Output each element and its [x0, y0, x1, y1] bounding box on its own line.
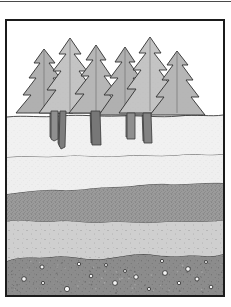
grit-dot	[144, 285, 146, 287]
rock-fragment	[209, 285, 213, 289]
rock-fragment	[89, 274, 93, 278]
grit-dot	[115, 292, 117, 294]
grit-dot	[100, 268, 101, 269]
grit-dot	[64, 268, 65, 269]
rock-fragment	[22, 277, 27, 282]
grit-dot	[8, 273, 9, 274]
grit-dot	[11, 271, 12, 272]
grit-dot	[37, 289, 38, 290]
grit-dot	[27, 269, 28, 270]
grit-dot	[177, 271, 179, 273]
grit-dot	[11, 287, 12, 288]
grit-dot	[95, 288, 96, 289]
rock-fragment	[105, 264, 108, 267]
grit-dot	[84, 284, 85, 285]
grit-dot	[39, 288, 40, 289]
grit-dot	[129, 269, 130, 270]
grit-dot	[207, 288, 208, 289]
grit-dot	[138, 271, 139, 272]
rock-fragment	[160, 259, 163, 262]
grit-dot	[137, 280, 138, 281]
grit-dot	[221, 272, 223, 274]
rock-fragment	[186, 267, 191, 272]
grit-dot	[94, 279, 95, 280]
grit-dot	[173, 289, 174, 290]
grit-dot	[61, 262, 63, 264]
rock-fragment	[41, 281, 44, 284]
grit-dot	[167, 291, 168, 292]
grit-dot	[186, 272, 188, 274]
rock-fragment	[163, 271, 168, 276]
grit-dot	[113, 277, 114, 278]
grit-dot	[201, 271, 203, 273]
grit-dot	[122, 272, 123, 273]
grit-dot	[39, 262, 40, 263]
grit-dot	[176, 285, 177, 286]
grit-dot	[71, 292, 72, 293]
grit-dot	[60, 282, 61, 283]
grit-dot	[153, 290, 154, 291]
grit-dot	[100, 281, 101, 282]
grit-dot	[200, 276, 201, 277]
figure-frame	[5, 19, 225, 297]
grit-dot	[30, 261, 32, 263]
grit-dot	[221, 270, 222, 271]
soil-layer-topsoil	[7, 115, 223, 157]
grit-dot	[93, 266, 95, 268]
grit-dot	[14, 289, 15, 290]
grit-dot	[206, 272, 207, 273]
grit-dot	[53, 284, 54, 285]
grit-dot	[12, 273, 13, 274]
grit-dot	[15, 262, 16, 263]
grit-dot	[121, 278, 123, 280]
grit-dot	[104, 282, 106, 284]
grit-dot	[16, 289, 18, 291]
grit-dot	[193, 275, 194, 276]
grit-dot	[200, 264, 201, 265]
rock-fragment	[40, 265, 44, 269]
grit-dot	[89, 271, 91, 273]
illustration-canvas: Soil profile cross-section with conifer …	[0, 0, 231, 307]
grit-dot	[209, 263, 210, 264]
rock-fragment	[177, 281, 180, 284]
grit-dot	[129, 270, 130, 271]
grit-dot	[71, 288, 72, 289]
rock-fragment	[147, 287, 150, 290]
grit-dot	[84, 281, 85, 282]
grit-dot	[218, 278, 219, 279]
grit-dot	[130, 286, 131, 287]
grit-dot	[160, 285, 161, 286]
grit-dot	[77, 285, 79, 287]
rock-fragment	[64, 286, 69, 291]
grit-dot	[104, 271, 106, 273]
grit-dot	[118, 275, 119, 276]
grit-dot	[91, 284, 93, 286]
grit-dot	[63, 285, 64, 286]
grit-dot	[11, 274, 12, 275]
grit-dot	[134, 271, 136, 273]
grit-dot	[156, 289, 157, 290]
rock-fragment	[77, 262, 80, 265]
grit-dot	[178, 265, 179, 266]
grit-dot	[13, 285, 14, 286]
grit-dot	[8, 290, 9, 291]
grit-dot	[205, 269, 206, 270]
grit-dot	[180, 292, 181, 293]
grit-dot	[201, 289, 202, 290]
soil-layer-stack	[7, 115, 223, 295]
grit-dot	[39, 280, 40, 281]
grit-dot	[101, 277, 103, 279]
grit-dot	[168, 289, 170, 291]
soil-layer-parent-material	[7, 254, 223, 295]
grit-dot	[191, 285, 192, 286]
grit-dot	[33, 282, 34, 283]
grit-dot	[123, 264, 124, 265]
rock-fragment	[195, 277, 199, 281]
grit-dot	[181, 289, 182, 290]
figure-inner	[7, 21, 223, 295]
grit-dot	[182, 265, 184, 267]
grit-dot	[164, 279, 165, 280]
rock-fragment	[124, 270, 127, 273]
grit-dot	[74, 264, 75, 265]
grit-dot	[78, 281, 79, 282]
